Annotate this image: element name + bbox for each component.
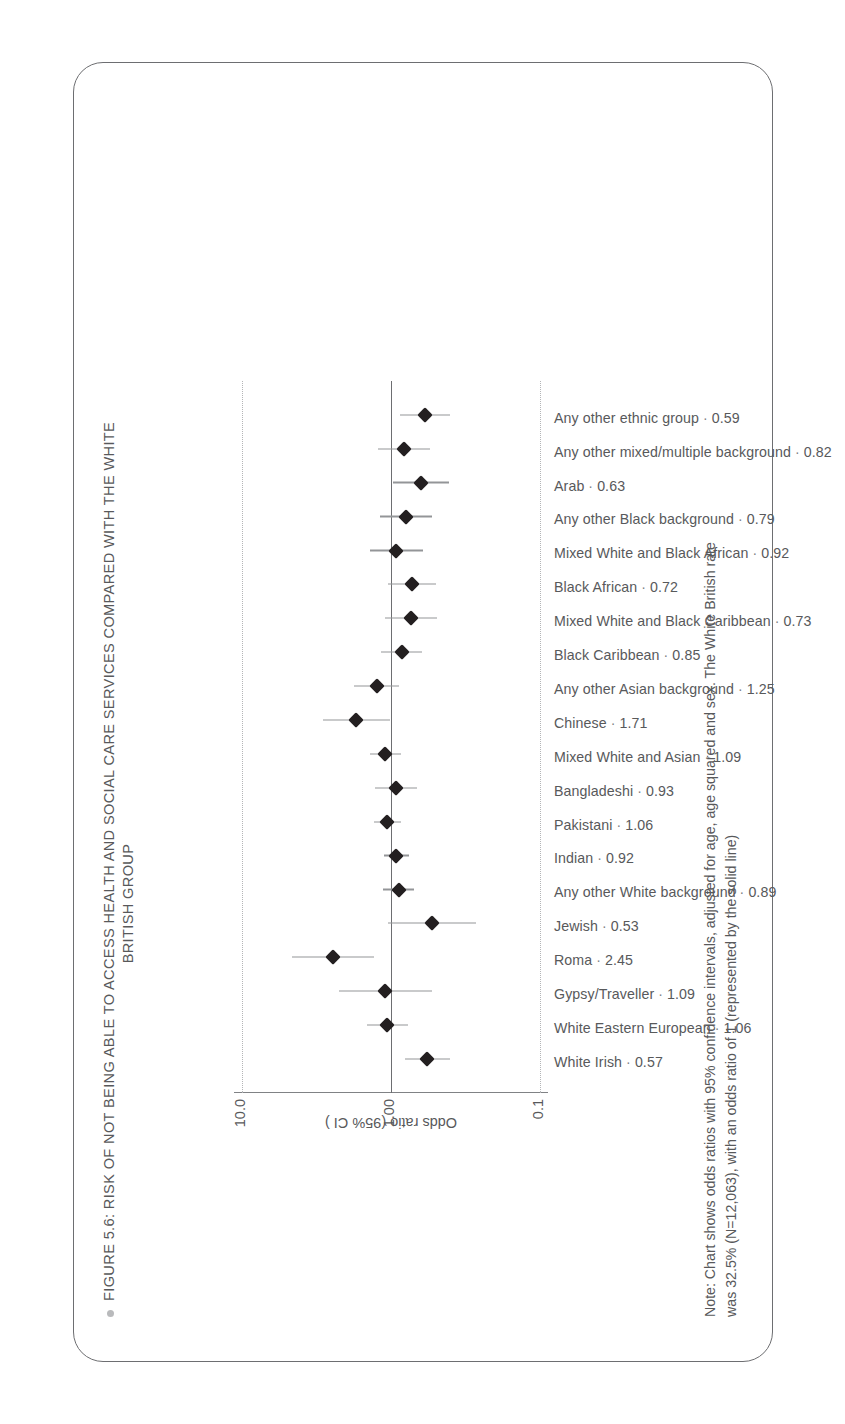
odds-ratio-marker [387,780,403,796]
y-tick-01: 0.1 [530,1099,546,1147]
category-name: White Irish [554,1054,622,1070]
odds-ratio-value: 0.89 [748,884,776,900]
category-name: White Eastern European [554,1020,711,1036]
odds-ratio-marker [403,611,419,627]
odds-ratio-value: 0.82 [803,444,831,460]
figure-page: FIGURE 5.6: RISK OF NOT BEING ABLE TO AC… [0,0,845,1424]
note-line2: was 32.5% (N=12,063), with an odds ratio… [721,105,742,1317]
separator-dot: · [593,850,606,866]
category-label: White Irish · 0.57 [554,1054,663,1070]
separator-dot: · [654,986,667,1002]
category-name: Black Caribbean [554,647,660,663]
odds-ratio-marker [379,814,395,830]
separator-dot: · [633,783,646,799]
odds-ratio-value: 0.63 [597,478,625,494]
odds-ratio-value: 0.92 [761,545,789,561]
figure-title-row: FIGURE 5.6: RISK OF NOT BEING ABLE TO AC… [100,103,138,1317]
separator-dot: · [790,444,803,460]
odds-ratio-value: 0.72 [650,579,678,595]
odds-ratio-marker [393,644,409,660]
category-label: Arab · 0.63 [554,478,625,494]
category-label: Any other mixed/multiple background · 0.… [554,444,832,460]
category-name: Arab [554,478,584,494]
category-label: Jewish · 0.53 [554,918,639,934]
reference-line-1 [391,381,392,1093]
separator-dot: · [606,715,619,731]
category-name: Any other ethnic group [554,410,699,426]
odds-ratio-value: 1.06 [625,817,653,833]
category-name: Mixed White and Asian [554,749,700,765]
odds-ratio-value: 0.79 [746,511,774,527]
gridline-01 [540,381,541,1093]
odds-ratio-value: 0.73 [783,613,811,629]
category-label: Mixed White and Black African · 0.92 [554,545,789,561]
category-name: Pakistani [554,817,612,833]
odds-ratio-marker [325,950,341,966]
category-name: Jewish [554,918,598,934]
separator-dot: · [584,478,597,494]
odds-ratio-value: 1.71 [619,715,647,731]
category-name: Any other mixed/multiple background [554,444,791,460]
odds-ratio-marker [379,1017,395,1033]
odds-ratio-marker [368,678,384,694]
category-name: Roma [554,952,592,968]
separator-dot: · [770,613,783,629]
odds-ratio-marker [398,509,414,525]
category-name: Gypsy/Traveller [554,986,654,1002]
y-axis-title: Odds ratio (95% CI ) [324,1115,456,1131]
odds-ratio-marker [348,712,364,728]
page-title: FIGURE 5.6: RISK OF NOT BEING ABLE TO AC… [100,421,138,1301]
separator-dot: · [612,817,625,833]
category-label: Any other White background · 0.89 [554,884,776,900]
category-label: Pakistani · 1.06 [554,817,653,833]
category-name: Black African [554,579,637,595]
odds-ratio-value: 0.92 [606,850,634,866]
odds-ratio-value: 0.93 [645,783,673,799]
category-label: Chinese · 1.71 [554,715,648,731]
category-label: Indian · 0.92 [554,850,634,866]
odds-ratio-marker [424,916,440,932]
odds-ratio-value: 0.57 [634,1054,662,1070]
separator-dot: · [748,545,761,561]
odds-ratio-value: 0.53 [610,918,638,934]
odds-ratio-marker [404,577,420,593]
note-line1: Note: Chart shows odds ratios with 95% c… [700,105,721,1317]
category-name: Chinese [554,715,607,731]
figure-title-line2: BRITISH GROUP [119,506,138,1301]
figure-card: FIGURE 5.6: RISK OF NOT BEING ABLE TO AC… [73,62,773,1362]
odds-ratio-marker [417,407,433,423]
odds-ratio-value: 2.45 [605,952,633,968]
separator-dot: · [592,952,605,968]
category-label: Gypsy/Traveller · 1.09 [554,986,695,1002]
category-name: Indian [554,850,593,866]
forest-plot: 10.0 1.00 0.1 Odds ratio (95% CI ) [242,381,540,1093]
separator-dot: · [597,918,610,934]
odds-ratio-marker [390,882,406,898]
odds-ratio-value: 1.09 [667,986,695,1002]
odds-ratio-value: 1.25 [746,681,774,697]
separator-dot: · [659,647,672,663]
y-tick-10: 10.0 [232,1099,248,1147]
figure-title-line1: FIGURE 5.6: RISK OF NOT BEING ABLE TO AC… [101,422,117,1301]
category-label: Black Caribbean · 0.85 [554,647,700,663]
figure-note: Note: Chart shows odds ratios with 95% c… [700,105,742,1317]
rotated-figure-wrapper: FIGURE 5.6: RISK OF NOT BEING ABLE TO AC… [73,62,773,1362]
odds-ratio-marker [413,475,429,491]
separator-dot: · [637,579,650,595]
bullet-icon [107,1310,114,1317]
category-label: Mixed White and Black Caribbean · 0.73 [554,613,812,629]
category-label: Bangladeshi · 0.93 [554,783,674,799]
separator-dot: · [622,1054,635,1070]
odds-ratio-value: 0.85 [672,647,700,663]
category-label: Black African · 0.72 [554,579,678,595]
category-label: Roma · 2.45 [554,952,633,968]
odds-ratio-marker [419,1051,435,1067]
odds-ratio-marker [396,441,412,457]
category-name: Bangladeshi [554,783,633,799]
gridline-10 [242,381,243,1093]
